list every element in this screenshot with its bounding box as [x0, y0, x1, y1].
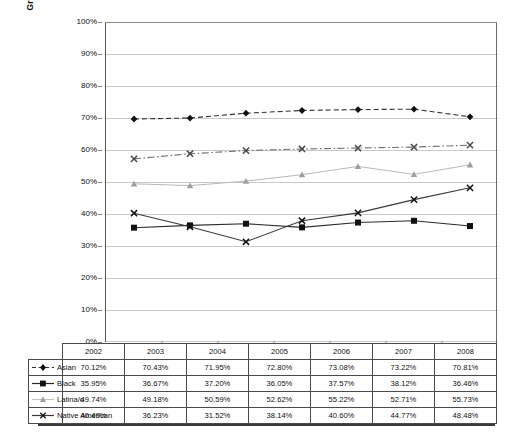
y-tickmark-70 [98, 118, 102, 119]
y-tickmark-80 [98, 86, 102, 87]
footer-rule [38, 424, 495, 426]
cell-latinao-2003: 49.18% [125, 392, 187, 408]
cell-native-american-2005: 38.14% [249, 408, 311, 424]
cell-native-american-2006: 40.60% [311, 408, 373, 424]
y-tick-30: 30% [81, 242, 97, 250]
y-axis-title: Graduation Rate Within 150% of Normal Ti… [22, 0, 38, 62]
column-header-2002: 2002 [63, 344, 125, 360]
y-tickmark-100 [98, 22, 102, 23]
legend-row-native-american[interactable]: Native American [29, 408, 63, 424]
cell-black-2006: 37.57% [311, 376, 373, 392]
cell-native-american-2003: 36.23% [125, 408, 187, 424]
table-header-row: 2002 2003 2004 2005 2006 2007 2008 [29, 344, 497, 360]
y-tick-80: 80% [81, 82, 97, 90]
cell-native-american-2008: 48.48% [435, 408, 497, 424]
column-header-2008: 2008 [435, 344, 497, 360]
legend-label-latinao: Latina/o [57, 395, 84, 404]
cell-asian-2008: 70.81% [435, 360, 497, 376]
y-tick-20: 20% [81, 274, 97, 282]
table-row: Native American 40.49% 36.23% 31.52% 38.… [29, 408, 497, 424]
series-layer [106, 23, 498, 343]
legend-label-black: Black [57, 379, 76, 388]
y-tickmark-10 [98, 310, 102, 311]
cell-asian-2004: 71.95% [187, 360, 249, 376]
y-tick-100: 100% [77, 18, 97, 26]
cell-black-2008: 36.46% [435, 376, 497, 392]
y-tickmark-40 [98, 214, 102, 215]
table-row: Latina/o 49.74% 49.18% 50.59% 52.62% 55.… [29, 392, 497, 408]
cell-black-2005: 36.05% [249, 376, 311, 392]
y-tick-90: 90% [81, 50, 97, 58]
plot-area [105, 22, 497, 342]
table-body: Asian 70.12% 70.43% 71.95% 72.80% 73.08%… [29, 360, 497, 424]
cell-latinao-2005: 52.62% [249, 392, 311, 408]
y-tickmark-90 [98, 54, 102, 55]
column-header-2006: 2006 [311, 344, 373, 360]
y-tick-60: 60% [81, 146, 97, 154]
cell-latinao-2004: 50.59% [187, 392, 249, 408]
column-header-2007: 2007 [373, 344, 435, 360]
cell-asian-2006: 73.08% [311, 360, 373, 376]
cell-black-2007: 38.12% [373, 376, 435, 392]
legend-row-latinao[interactable]: Latina/o [29, 392, 63, 408]
table-row: Asian 70.12% 70.43% 71.95% 72.80% 73.08%… [29, 360, 497, 376]
cell-native-american-2007: 44.77% [373, 408, 435, 424]
solid-square-key-icon [32, 379, 54, 388]
y-tick-50: 50% [81, 178, 97, 186]
cell-asian-2007: 73.22% [373, 360, 435, 376]
dashed-diamond-key-icon [32, 363, 54, 372]
legend-row-black[interactable]: Black [29, 376, 63, 392]
chart-page: Graduation Rate Within 150% of Normal Ti… [0, 0, 529, 435]
y-tickmark-20 [98, 278, 102, 279]
cell-asian-2005: 72.80% [249, 360, 311, 376]
table-row: Black 35.95% 36.67% 37.20% 36.05% 37.57%… [29, 376, 497, 392]
solid-x-key-icon [32, 411, 54, 420]
cell-latinao-2006: 55.22% [311, 392, 373, 408]
y-tickmark-60 [98, 150, 102, 151]
cell-asian-2003: 70.43% [125, 360, 187, 376]
cell-latinao-2008: 55.73% [435, 392, 497, 408]
table-corner-cell [29, 344, 63, 360]
cell-native-american-2004: 31.52% [187, 408, 249, 424]
values-grid: 2002 2003 2004 2005 2006 2007 2008 [28, 343, 497, 424]
column-header-2003: 2003 [125, 344, 187, 360]
cell-latinao-2007: 52.71% [373, 392, 435, 408]
cell-black-2003: 36.67% [125, 376, 187, 392]
legend-row-asian[interactable]: Asian [29, 360, 63, 376]
light-triangle-key-icon [32, 395, 54, 404]
data-table: 2002 2003 2004 2005 2006 2007 2008 [28, 343, 497, 424]
legend-label-asian: Asian [57, 363, 76, 372]
y-tick-10: 10% [81, 306, 97, 314]
y-tickmark-50 [98, 182, 102, 183]
cell-black-2004: 37.20% [187, 376, 249, 392]
y-tick-70: 70% [81, 114, 97, 122]
y-tickmark-30 [98, 246, 102, 247]
column-header-2004: 2004 [187, 344, 249, 360]
column-header-2005: 2005 [249, 344, 311, 360]
y-tick-40: 40% [81, 210, 97, 218]
y-axis-tick-labels: 100% 90% 80% 70% 60% 50% 40% 30% 20% 10%… [62, 22, 102, 342]
